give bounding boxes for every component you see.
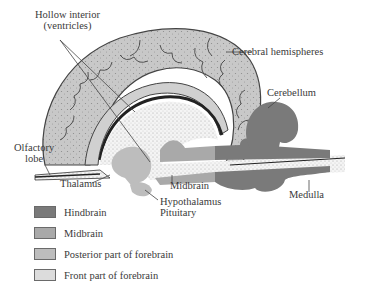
legend-item-front-forebrain: Front part of forebrain — [34, 268, 158, 282]
label-medulla: Medulla — [289, 189, 324, 200]
pituitary — [130, 182, 152, 196]
label-midbrain: Midbrain — [170, 180, 209, 191]
label-hollow-interior-line1: Hollow interior — [35, 9, 100, 20]
legend-swatch-midbrain — [34, 227, 56, 239]
legend-item-midbrain: Midbrain — [34, 226, 103, 240]
legend-label: Front part of forebrain — [64, 270, 158, 281]
legend-item-posterior-forebrain: Posterior part of forebrain — [34, 247, 173, 261]
legend-swatch-hindbrain — [34, 206, 56, 218]
legend-item-hindbrain: Hindbrain — [34, 205, 107, 219]
label-ventricles-line2: (ventricles) — [35, 20, 100, 31]
legend-swatch-posterior-forebrain — [34, 248, 56, 260]
label-hollow-interior: Hollow interior (ventricles) — [35, 9, 100, 31]
legend-label: Posterior part of forebrain — [64, 249, 173, 260]
label-cerebellum: Cerebellum — [267, 87, 316, 98]
label-pituitary: Pituitary — [160, 207, 221, 218]
legend-label: Hindbrain — [64, 207, 107, 218]
legend-label: Midbrain — [64, 228, 103, 239]
label-cerebral-hemispheres: Cerebral hemispheres — [232, 46, 323, 57]
label-lobe-line2: lobe — [14, 153, 54, 164]
label-thalamus: Thalamus — [60, 178, 101, 189]
legend-swatch-front-forebrain — [34, 269, 56, 281]
label-hypothalamus-pituitary: Hypothalamus Pituitary — [160, 196, 221, 218]
label-hypothalamus: Hypothalamus — [160, 196, 221, 207]
midbrain-region — [160, 140, 215, 162]
label-olfactory-line1: Olfactory — [14, 142, 54, 153]
label-olfactory-lobe: Olfactory lobe — [14, 142, 54, 164]
